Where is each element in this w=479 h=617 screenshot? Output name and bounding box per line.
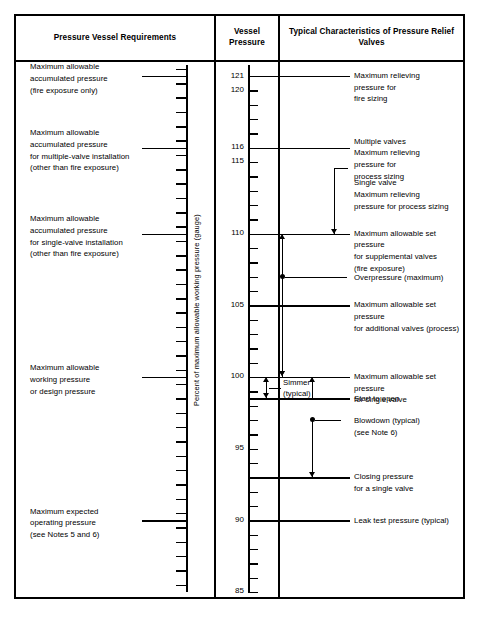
column-header-vessel-pressure: Vessel Pressure [216,16,278,60]
tick-left [176,341,186,342]
tick-left [176,499,186,500]
tick-label-95: 95 [216,444,244,452]
blowdown-leader [315,420,341,421]
left-callout-text-3: Maximum allowable working pressure or de… [30,362,180,397]
axis-line-right [248,65,250,592]
tick-right-85 [248,592,258,593]
tick-right-86 [248,578,258,579]
overpressure-span [282,234,283,377]
tick-left [176,585,186,586]
tick-right-113 [248,191,258,192]
tick-left [176,570,186,571]
blowdown-span [312,420,313,477]
tick-right-112 [248,205,258,206]
right-callout-text-9: Closing pressure for a single valve [354,471,462,494]
tick-right-94 [248,463,258,464]
tick-right-87 [248,563,258,564]
tick-left [176,484,186,485]
tick-label-110: 110 [216,229,244,237]
tick-right-106 [248,291,258,292]
tick-label-116: 116 [216,143,244,151]
tick-right-99 [248,391,258,392]
single-valve-bracket-stem [334,168,335,234]
diagram-frame: Pressure Vessel Requirements Vessel Pres… [14,14,465,599]
left-leader-4 [142,520,186,521]
tick-right-103 [248,334,258,335]
setpressure-arrow-top [309,377,315,382]
tick-right-104 [248,320,258,321]
rule-116 [248,148,350,149]
left-callout-text-1: Maximum allowable accumulated pressure f… [30,127,180,174]
tick-right-91 [248,506,258,507]
rule-90 [248,520,350,521]
right-callout-text-2: Single valve Maximum relieving pressure … [354,177,462,212]
tick-right-101 [248,363,258,364]
tick-right-115 [248,162,258,163]
left-leader-0 [142,76,186,77]
tick-label-120: 120 [216,86,244,94]
single-valve-bracket-top [334,168,348,169]
tick-left [176,427,186,428]
left-callout-text-4: Maximum expected operating pressure (see… [30,506,180,541]
overpressure-arrow-top [279,234,285,239]
tick-right-92 [248,492,258,493]
right-callout-text-1: Multiple valves Maximum relieving pressu… [354,136,462,183]
tick-right-108 [248,262,258,263]
tick-left [176,327,186,328]
overpressure-leader [285,277,347,278]
tick-left [176,542,186,543]
right-callout-text-8: Blowdown (typical) (see Note 6) [354,415,462,438]
tick-right-109 [248,248,258,249]
rule-110 [248,234,350,235]
rule-105 [248,305,350,306]
tick-left [176,456,186,457]
tick-right-117 [248,133,258,134]
left-leader-1 [142,148,186,149]
supplemental-arrow [279,371,285,376]
single-valve-arrow [331,229,337,234]
rule-121 [248,76,350,77]
tick-left [176,470,186,471]
simmer-arrow-bottom [263,393,269,398]
tick-left [176,284,186,285]
right-callout-text-4: Overpressure (maximum) [354,272,462,284]
tick-left [176,556,186,557]
tick-right-96 [248,434,258,435]
right-callout-text-5: Maximum allowable set pressure for addit… [354,299,462,334]
tick-label-115: 115 [216,157,244,165]
simmer-leader [269,388,281,389]
tick-left [176,398,186,399]
left-callout-text-0: Maximum allowable accumulated pressure (… [30,61,180,96]
right-callout-text-3: Maximum allowable set pressure for suppl… [354,228,462,275]
tick-left [176,198,186,199]
tick-right-88 [248,549,258,550]
left-callout-text-2: Maximum allowable accumulated pressure f… [30,213,180,260]
tick-label-105: 105 [216,301,244,309]
right-callout-text-0: Maximum relieving pressure for fire sizi… [354,70,462,105]
tick-label-121: 121 [216,72,244,80]
axis-title: Percent of maximum allowable working pre… [192,214,201,406]
axis-line-left [186,65,188,592]
tick-left [176,269,186,270]
tick-right-97 [248,420,258,421]
tick-right-120 [248,90,258,91]
tick-left [176,441,186,442]
tick-left [176,298,186,299]
left-leader-3 [142,377,186,378]
diagram-page: Pressure Vessel Requirements Vessel Pres… [0,0,479,617]
tick-left [176,312,186,313]
tick-left [176,97,186,98]
column-header-requirements: Pressure Vessel Requirements [16,16,214,60]
tick-right-107 [248,277,258,278]
tick-right-118 [248,119,258,120]
tick-right-89 [248,535,258,536]
simmer-label: Simmer (typical) [283,377,329,400]
simmer-arrow-top [263,377,269,382]
tick-right-111 [248,219,258,220]
tick-left [176,183,186,184]
right-callout-text-10: Leak test pressure (typical) [354,515,462,527]
tick-left [176,413,186,414]
column-header-relief-valves: Typical Characteristics of Pressure Reli… [280,16,463,60]
tick-right-102 [248,348,258,349]
tick-label-90: 90 [216,516,244,524]
